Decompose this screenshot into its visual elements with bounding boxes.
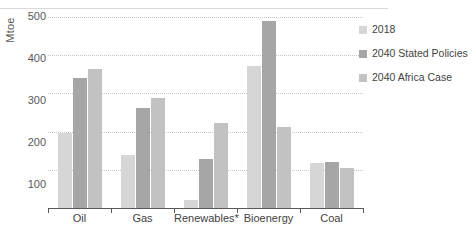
bar <box>73 78 87 208</box>
x-axis-label: Coal <box>300 212 363 224</box>
x-axis-label: Oil <box>48 212 111 224</box>
bar-group <box>184 17 228 208</box>
y-tick-label: 200 <box>6 137 46 148</box>
y-tick-label: 300 <box>6 95 46 106</box>
y-tick-label: 100 <box>6 179 46 190</box>
chart-title-strip <box>0 0 476 9</box>
bar-group <box>58 17 102 208</box>
legend-item[interactable]: 2040 Africa Case <box>359 72 476 83</box>
bar-group <box>310 17 354 208</box>
bar <box>151 98 165 208</box>
bar <box>310 163 324 208</box>
plot-area <box>48 17 363 208</box>
bar <box>88 69 102 208</box>
legend-label: 2040 Stated Policies <box>372 48 468 59</box>
bar <box>247 66 261 208</box>
bar <box>277 127 291 208</box>
legend-swatch-icon <box>359 50 367 58</box>
bar <box>184 200 198 208</box>
bar <box>121 155 135 208</box>
bar <box>58 133 72 208</box>
bar <box>136 108 150 208</box>
x-axis-label: Bioenergy <box>237 212 300 224</box>
legend-label: 2040 Africa Case <box>372 72 452 83</box>
y-axis: Mtoe 500 400 300 200 100 <box>0 0 46 237</box>
y-tick-label: 400 <box>6 53 46 64</box>
bar <box>199 159 213 208</box>
bar-group <box>247 17 291 208</box>
bar <box>340 168 354 208</box>
legend-swatch-icon <box>359 74 367 82</box>
x-axis-line <box>48 208 363 209</box>
legend-label: 2018 <box>372 24 395 35</box>
chart-legend: 20182040 Stated Policies2040 Africa Case <box>359 24 476 96</box>
x-axis-tick <box>363 208 364 213</box>
y-tick-label: 500 <box>6 11 46 22</box>
legend-item[interactable]: 2040 Stated Policies <box>359 48 476 59</box>
x-axis-label: Renewables* <box>174 212 237 224</box>
bar <box>214 123 228 208</box>
bar <box>262 21 276 208</box>
x-axis-label: Gas <box>111 212 174 224</box>
legend-swatch-icon <box>359 26 367 34</box>
bar-group <box>121 17 165 208</box>
bar <box>325 162 339 208</box>
legend-item[interactable]: 2018 <box>359 24 476 35</box>
title-divider <box>0 8 388 9</box>
bar-chart: Mtoe 500 400 300 200 100 OilGasRenewable… <box>0 0 476 237</box>
